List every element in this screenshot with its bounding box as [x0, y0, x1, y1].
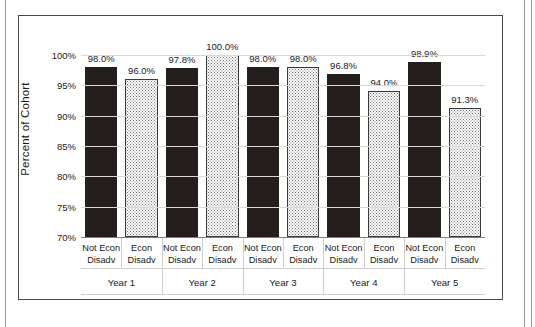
category-label-line2: Disadv — [243, 255, 283, 267]
category-label-line2: Disadv — [323, 255, 363, 267]
gridline-90% — [81, 116, 485, 117]
group-separator — [404, 268, 405, 294]
category-tick-label: Not EconDisadv — [323, 238, 363, 266]
gridline-85% — [81, 146, 485, 147]
bar-value-label: 100.0% — [206, 41, 238, 52]
group-label-year-2: Year 2 — [162, 270, 243, 294]
bar-value-label: 98.9% — [411, 48, 438, 59]
category-tick-label: EconDisadv — [364, 238, 404, 266]
category-tick-label: EconDisadv — [445, 238, 485, 266]
category-label-line2: Disadv — [404, 255, 444, 267]
page-margin-rule-right-outer — [531, 0, 532, 327]
bar-econ-disadv[interactable] — [125, 79, 157, 237]
gridline-100% — [81, 55, 485, 56]
category-separator — [243, 238, 244, 268]
category-separator — [121, 238, 122, 268]
category-separator — [364, 238, 365, 268]
category-separator — [445, 238, 446, 268]
category-label-line2: Disadv — [445, 255, 485, 267]
group-separator — [243, 268, 244, 294]
category-axis: Not EconDisadvEconDisadvNot EconDisadvEc… — [81, 238, 485, 296]
category-label-line1: Not Econ — [163, 243, 201, 253]
category-tick-label: Not EconDisadv — [81, 238, 121, 266]
page-margin-rule-left — [5, 0, 6, 327]
category-label-line1: Econ — [454, 243, 475, 253]
bar-not-econ-disadv[interactable] — [327, 74, 359, 237]
group-separator — [162, 268, 163, 294]
category-label-line1: Not Econ — [405, 243, 443, 253]
group-label-year-4: Year 4 — [323, 270, 404, 294]
category-separator — [202, 238, 203, 268]
category-label-line1: Not Econ — [325, 243, 363, 253]
category-label-line1: Econ — [374, 243, 395, 253]
y-tick-label: 80% — [57, 171, 76, 182]
bar-value-label: 96.0% — [128, 65, 155, 76]
plot-area: 98.0%96.0%97.8%100.0%98.0%98.0%96.8%94.0… — [81, 55, 485, 237]
y-tick-label: 75% — [57, 201, 76, 212]
category-tick-label: EconDisadv — [283, 238, 323, 266]
category-tick-label: Not EconDisadv — [162, 238, 202, 266]
group-axis-rule-bottom — [81, 294, 485, 295]
category-tick-label: Not EconDisadv — [404, 238, 444, 266]
bar-econ-disadv[interactable] — [368, 91, 400, 237]
bar-not-econ-disadv[interactable] — [166, 68, 198, 237]
category-label-line2: Disadv — [81, 255, 121, 267]
y-tick-label: 100% — [52, 50, 76, 61]
category-tick-label: EconDisadv — [202, 238, 242, 266]
bar-not-econ-disadv[interactable] — [247, 67, 279, 237]
gridline-80% — [81, 176, 485, 177]
y-tick-label: 70% — [57, 232, 76, 243]
gridline-75% — [81, 207, 485, 208]
bar-value-label: 96.8% — [330, 60, 357, 71]
category-separator — [162, 238, 163, 268]
category-label-line1: Econ — [131, 243, 152, 253]
y-axis-title: Percent of Cohort — [15, 36, 35, 221]
group-label-year-1: Year 1 — [81, 270, 162, 294]
bar-not-econ-disadv[interactable] — [408, 62, 440, 237]
bar-econ-disadv[interactable] — [287, 67, 319, 237]
category-tick-label: Not EconDisadv — [243, 238, 283, 266]
category-label-line2: Disadv — [283, 255, 323, 267]
category-separator — [323, 238, 324, 268]
bar-not-econ-disadv[interactable] — [85, 67, 117, 237]
category-label-line1: Econ — [212, 243, 233, 253]
category-label-line1: Not Econ — [82, 243, 120, 253]
bar-value-label: 97.8% — [169, 54, 196, 65]
category-tick-label: EconDisadv — [121, 238, 161, 266]
bar-value-label: 91.3% — [451, 94, 478, 105]
category-label-line2: Disadv — [121, 255, 161, 267]
bar-value-label: 94.0% — [371, 77, 398, 88]
gridline-95% — [81, 85, 485, 86]
bar-econ-disadv[interactable] — [449, 108, 481, 237]
y-axis-title-label: Percent of Cohort — [19, 82, 31, 176]
category-label-line1: Econ — [293, 243, 314, 253]
category-label-line2: Disadv — [202, 255, 242, 267]
category-separator — [404, 238, 405, 268]
page-margin-rule-right — [524, 0, 525, 327]
category-label-line1: Not Econ — [244, 243, 282, 253]
y-tick-label: 95% — [57, 80, 76, 91]
chart-figure: Percent of Cohort 98.0%96.0%97.8%100.0%9… — [18, 15, 503, 300]
group-label-year-3: Year 3 — [243, 270, 324, 294]
y-tick-label: 90% — [57, 110, 76, 121]
group-separator — [323, 268, 324, 294]
category-label-line2: Disadv — [162, 255, 202, 267]
category-label-line2: Disadv — [364, 255, 404, 267]
group-axis-rule-top — [81, 268, 485, 269]
y-tick-label: 85% — [57, 141, 76, 152]
chart-area: Percent of Cohort 98.0%96.0%97.8%100.0%9… — [19, 16, 502, 299]
group-label-year-5: Year 5 — [404, 270, 485, 294]
category-separator — [283, 238, 284, 268]
